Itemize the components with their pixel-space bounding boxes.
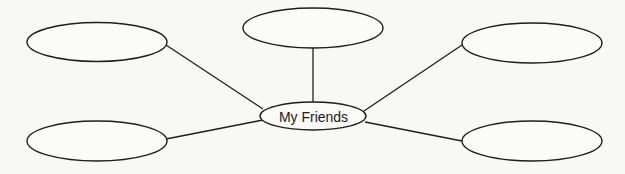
node-top-left-label[interactable] (37, 34, 157, 50)
edge-top-right (364, 45, 462, 111)
edge-bottom-left (166, 120, 263, 139)
node-top-right-label[interactable] (472, 35, 592, 51)
node-bottom-left-label[interactable] (37, 133, 157, 149)
edge-top-left (166, 45, 263, 109)
edge-bottom-right (365, 122, 462, 141)
node-bottom-right-label[interactable] (472, 133, 592, 149)
node-top-center-label[interactable] (253, 20, 373, 36)
mind-map-diagram: My Friends (0, 0, 625, 174)
center-node (260, 102, 366, 130)
